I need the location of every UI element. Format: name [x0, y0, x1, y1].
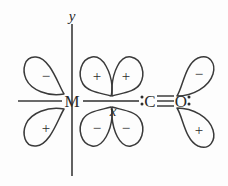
carbon-lone-pair-dots [141, 96, 144, 106]
orbital-sign-co-pi-star-upper-right: − [195, 66, 203, 82]
x-axis-label: x [109, 103, 117, 119]
atom-label-carbon: C [144, 92, 155, 111]
oxygen-lone-pair-dots [188, 96, 191, 106]
oxygen-lone-pair-dot-bottom [188, 103, 191, 106]
orbital-diagram-figure: y x M C O − + + + − − − + [0, 0, 228, 186]
orbital-sign-metal-d-lower-inner-left: − [93, 120, 101, 136]
atom-label-metal: M [64, 92, 79, 111]
orbital-sign-metal-d-upper-inner-left: + [93, 68, 101, 84]
oxygen-lone-pair-dot-top [188, 96, 191, 99]
y-axis-label: y [67, 8, 76, 24]
orbital-sign-metal-d-lower-left: + [42, 120, 50, 136]
carbon-oxygen-triple-bond [157, 96, 174, 106]
orbital-sign-metal-d-upper-inner-right: + [122, 68, 130, 84]
carbon-lone-pair-dot-top [141, 96, 144, 99]
orbital-sign-metal-d-upper-left: − [42, 68, 50, 84]
orbital-sign-co-pi-star-lower-right: + [195, 122, 203, 138]
atom-label-oxygen: O [175, 92, 187, 111]
carbon-lone-pair-dot-bottom [141, 103, 144, 106]
diagram-canvas: y x M C O − + + + − − − + [0, 0, 228, 186]
orbital-sign-metal-d-lower-inner-right: − [122, 120, 130, 136]
